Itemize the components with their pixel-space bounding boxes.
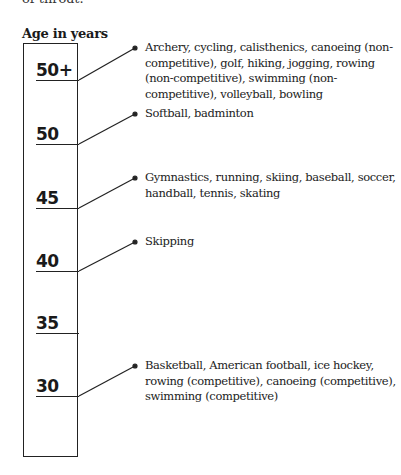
activities-30: Basketball, American football, ice hocke… (145, 358, 401, 405)
activities-40: Skipping (145, 234, 401, 250)
activities-50: Softball, badminton (145, 106, 401, 122)
activities-45: Gymnastics, running, skiing, baseball, s… (145, 170, 401, 201)
activities-50-plus: Archery, cycling, calisthenics, canoeing… (145, 40, 401, 102)
